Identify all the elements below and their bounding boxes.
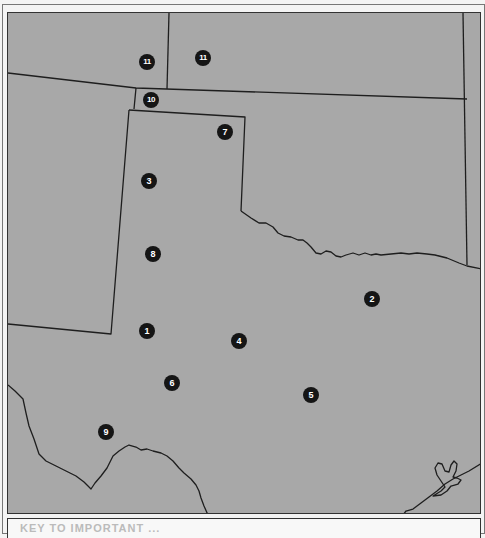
map-marker-9[interactable]: 9 <box>98 424 114 440</box>
map-marker-11b[interactable]: 11 <box>195 50 211 66</box>
map-marker-4[interactable]: 4 <box>231 333 247 349</box>
map-marker-11a[interactable]: 11 <box>139 54 155 70</box>
map-marker-5[interactable]: 5 <box>303 387 319 403</box>
map-marker-7[interactable]: 7 <box>217 124 233 140</box>
map-marker-10[interactable]: 10 <box>143 92 159 108</box>
map-caption-text: KEY TO IMPORTANT ... <box>20 522 160 534</box>
map-marker-6[interactable]: 6 <box>164 375 180 391</box>
map-marker-8[interactable]: 8 <box>145 246 161 262</box>
state-boundaries <box>8 13 481 514</box>
map-marker-1[interactable]: 1 <box>139 323 155 339</box>
map-marker-2[interactable]: 2 <box>364 291 380 307</box>
map-panel: 11 11 10 7 3 8 2 1 4 6 5 9 <box>7 12 481 514</box>
map-caption-panel: KEY TO IMPORTANT ... <box>7 518 481 538</box>
map-marker-3[interactable]: 3 <box>141 173 157 189</box>
